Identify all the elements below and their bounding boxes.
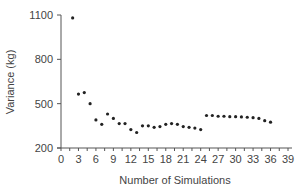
chart-axes: 2005008001100036912151821242730333639 — [29, 9, 294, 165]
data-point — [118, 122, 121, 125]
data-point — [205, 114, 208, 117]
x-tick-label: 15 — [142, 153, 154, 165]
data-point — [94, 118, 97, 121]
x-tick-label: 3 — [75, 153, 81, 165]
data-point — [251, 116, 254, 119]
x-tick-label: 27 — [212, 153, 224, 165]
data-point — [263, 119, 266, 122]
data-point — [176, 123, 179, 126]
data-point — [106, 112, 109, 115]
data-point — [240, 115, 243, 118]
data-point — [123, 122, 126, 125]
data-point — [158, 125, 161, 128]
data-point — [182, 125, 185, 128]
x-tick-label: 12 — [125, 153, 137, 165]
data-point — [187, 126, 190, 129]
x-tick-label: 18 — [160, 153, 172, 165]
scatter-chart: 2005008001100036912151821242730333639 Nu… — [0, 0, 305, 193]
data-point — [193, 126, 196, 129]
y-tick-label: 200 — [35, 142, 53, 154]
y-tick-label: 800 — [35, 53, 53, 65]
x-tick-label: 33 — [247, 153, 259, 165]
data-point — [217, 115, 220, 118]
x-tick-label: 36 — [264, 153, 276, 165]
data-point — [199, 128, 202, 131]
y-tick-label: 500 — [35, 98, 53, 110]
data-point — [170, 122, 173, 125]
x-tick-label: 0 — [58, 153, 64, 165]
data-point — [257, 117, 260, 120]
data-point — [100, 123, 103, 126]
x-axis-label: Number of Simulations — [119, 174, 231, 186]
data-point — [71, 16, 74, 19]
data-point — [164, 123, 167, 126]
x-tick-label: 39 — [282, 153, 294, 165]
data-point — [153, 126, 156, 129]
data-point — [129, 128, 132, 131]
data-point — [228, 115, 231, 118]
data-point — [269, 121, 272, 124]
data-point — [89, 102, 92, 105]
data-point — [77, 92, 80, 95]
data-point — [222, 115, 225, 118]
data-point — [211, 114, 214, 117]
data-point — [246, 116, 249, 119]
data-point — [135, 131, 138, 134]
y-tick-label: 1100 — [29, 9, 53, 21]
data-point — [234, 115, 237, 118]
x-tick-label: 9 — [110, 153, 116, 165]
x-tick-label: 21 — [177, 153, 189, 165]
data-point — [112, 117, 115, 120]
data-point — [83, 91, 86, 94]
x-tick-label: 24 — [195, 153, 207, 165]
y-axis-label: Variance (kg) — [4, 50, 16, 115]
x-tick-label: 30 — [229, 153, 241, 165]
x-tick-label: 6 — [93, 153, 99, 165]
data-point — [141, 124, 144, 127]
data-points — [71, 16, 272, 134]
data-point — [147, 124, 150, 127]
